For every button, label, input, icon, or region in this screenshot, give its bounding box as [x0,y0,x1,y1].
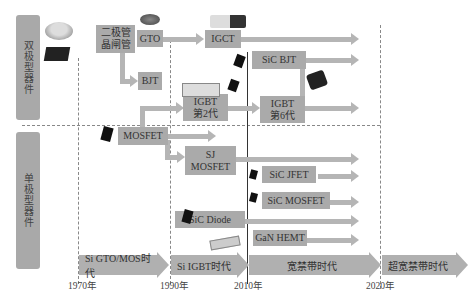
year-1990: 1990年 [160,278,189,292]
device-gan-hemt: GaN HEMT [253,230,307,246]
era-si-gto-mos: Si GTO/MOS时代 [79,255,157,275]
device-mosfet: MOSFET [118,127,168,145]
arrow-to-bjt [130,75,138,87]
module-image [44,47,70,61]
arrow-sj-future [351,153,359,165]
device-igbt-gen6: IGBT 第6代 [260,96,305,123]
device-bjt: BJT [138,72,162,90]
connector-igbt6-future [305,106,351,111]
arrow-to-igbt6 [252,102,260,114]
year-2010: 2010年 [234,278,263,292]
year-2020: 2020年 [366,278,395,292]
connector-igbt2-igbt6 [228,106,252,111]
divider-2010 [247,52,248,284]
connector-sicmosfet-future [330,200,351,205]
connector-sicjfet-future [318,174,351,179]
category-bipolar: 双极型器件 [16,15,40,120]
connector-to-sj [165,155,177,160]
arrow-sicmosfet-future [351,196,359,208]
era-ultra-wide-bandgap: 超宽禁带时代 [382,255,456,275]
gan-hemt-package-image [209,235,240,250]
arrow-igct-future [351,33,359,45]
connector-igct-future [241,37,351,42]
sic-mosfet-package-image [249,192,258,203]
arrow-igbt6-future [351,102,359,114]
era-arrowhead [369,252,381,278]
connector-to-igbt2 [140,106,176,111]
device-thyristor: 二极管 晶闸管 [96,25,135,53]
igbt-module-image [182,83,220,97]
divider-2020 [380,25,381,289]
device-igct: IGCT [205,30,241,48]
connector-bjt [120,79,130,84]
arrow-to-sj [177,151,185,163]
device-sic-jfet: SiC JFET [262,166,316,183]
category-unipolar: 单极型器件 [16,132,40,269]
arrow-sicbjt-future [351,54,359,66]
igct-device-image [210,15,246,28]
device-sic-mosfet: SiC MOSFET [262,192,330,209]
device-sic-bjt: SiC BJT [252,51,306,69]
connector-gto-igct [162,37,196,42]
era-arrowhead [157,252,169,278]
divider-1970 [78,58,79,284]
mosfet-package-image [100,126,113,142]
arrow-gan-future [351,234,359,246]
connector-gan-future [307,238,351,243]
arrow-mosfet-future [208,130,216,142]
arrow-sicdiode-future [351,215,359,227]
arrow-to-igct [196,33,204,45]
transistor-image [233,54,246,68]
era-arrowhead [237,252,249,278]
connector-sicbjt-future [306,58,351,63]
device-gto: GTO [137,30,163,47]
year-1970: 1970年 [68,278,97,292]
connector-mosfet-future [168,134,208,139]
era-wide-bandgap: 宽禁带时代 [249,255,369,275]
era-arrowhead [456,252,468,278]
sic-module-image [306,69,328,90]
era-si-igbt: Si IGBT时代 [171,255,237,275]
connector-sj-future [236,157,351,162]
device-sj-mosfet: SJ MOSFET [185,146,236,175]
divider-1990 [170,40,171,284]
transistor-image [227,79,239,92]
connector-sicdiode-future [245,219,351,224]
press-pack-thyristor-image [45,22,73,40]
arrow-sicjfet-future [351,170,359,182]
category-divider [22,125,380,126]
sic-jfet-package-image [249,169,258,180]
gto-device-image [140,14,160,25]
device-igbt-gen2: IGBT 第2代 [183,94,228,121]
